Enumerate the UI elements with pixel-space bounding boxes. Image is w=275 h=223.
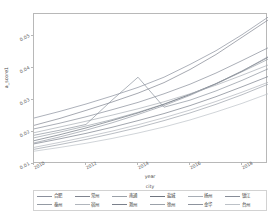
- legend-line-swatch: [75, 204, 90, 205]
- line-series: [34, 17, 268, 118]
- legend-label: 合肥: [54, 193, 62, 199]
- legend-item[interactable]: 盐城: [150, 193, 188, 199]
- legend-label: 镇江: [242, 193, 250, 199]
- legend-row: 泰州宿州滁州徐州金华台州: [37, 202, 263, 209]
- legend-item[interactable]: 合肥: [37, 193, 75, 199]
- legend-label: 金华: [204, 202, 212, 208]
- line-series-canvas: [34, 14, 268, 164]
- legend-item[interactable]: 滁州: [112, 202, 150, 208]
- legend-line-swatch: [112, 196, 127, 197]
- line-series: [34, 20, 268, 125]
- legend[interactable]: 合肥常州南通盐城扬州镇江泰州宿州滁州徐州金华台州: [33, 190, 267, 211]
- y-axis-title: a_score1: [4, 56, 9, 100]
- legend-item[interactable]: 南通: [112, 193, 150, 199]
- legend-row: 合肥常州南通盐城扬州镇江: [37, 193, 263, 200]
- legend-title: city: [33, 184, 267, 189]
- y-axis-tick-label: 0.05: [19, 33, 31, 42]
- legend-item[interactable]: 徐州: [150, 202, 188, 208]
- legend-label: 徐州: [167, 202, 175, 208]
- legend-line-swatch: [225, 196, 240, 197]
- legend-line-swatch: [37, 204, 52, 205]
- legend-item[interactable]: 泰州: [37, 202, 75, 208]
- plot-area: [33, 13, 267, 163]
- legend-line-swatch: [112, 204, 127, 205]
- legend-label: 泰州: [54, 202, 62, 208]
- legend-label: 盐城: [167, 193, 175, 199]
- legend-item[interactable]: 扬州: [188, 193, 226, 199]
- legend-item[interactable]: 常州: [75, 193, 113, 199]
- legend-line-swatch: [150, 204, 165, 205]
- legend-label: 宿州: [91, 202, 99, 208]
- legend-line-swatch: [188, 196, 203, 197]
- legend-line-swatch: [225, 204, 240, 205]
- legend-label: 常州: [91, 193, 99, 199]
- legend-label: 台州: [242, 202, 250, 208]
- legend-line-swatch: [37, 196, 52, 197]
- legend-label: 滁州: [129, 202, 137, 208]
- legend-item[interactable]: 台州: [225, 202, 263, 208]
- legend-item[interactable]: 镇江: [225, 193, 263, 199]
- legend-item[interactable]: 宿州: [75, 202, 113, 208]
- y-axis-tick-label: 0.01: [19, 161, 31, 170]
- y-axis-tick-label: 0.03: [19, 97, 31, 106]
- legend-label: 扬州: [204, 193, 212, 199]
- legend-label: 南通: [129, 193, 137, 199]
- chart-root: a_score1 0.010.020.030.040.05 2010201220…: [0, 0, 275, 223]
- y-axis-tick-label: 0.04: [19, 65, 31, 74]
- legend-line-swatch: [188, 204, 203, 205]
- legend-item[interactable]: 金华: [188, 202, 226, 208]
- y-axis-tick-label: 0.02: [19, 129, 31, 138]
- legend-line-swatch: [75, 196, 90, 197]
- legend-line-swatch: [150, 196, 165, 197]
- x-axis-title: year: [33, 174, 267, 179]
- line-series: [34, 59, 268, 138]
